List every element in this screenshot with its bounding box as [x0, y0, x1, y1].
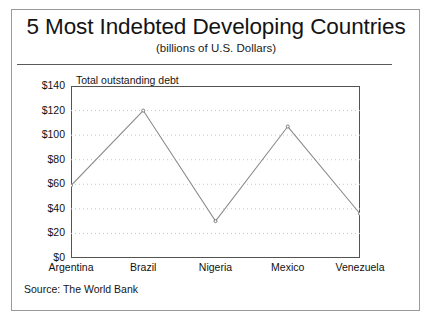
y-tick-label: $140	[19, 79, 65, 91]
data-point-marker	[286, 125, 289, 128]
data-point-marker	[142, 109, 145, 112]
plot-canvas	[71, 86, 360, 258]
chart-subtitle: (billions of U.S. Dollars)	[0, 42, 432, 54]
y-tick-label: $80	[19, 153, 65, 165]
chart-figure: 5 Most Indebted Developing Countries (bi…	[0, 0, 432, 322]
y-tick-label: $100	[19, 128, 65, 140]
chart-title: 5 Most Indebted Developing Countries	[0, 14, 432, 40]
header-divider	[17, 64, 392, 65]
y-tick-label: $40	[19, 202, 65, 214]
y-tick-label: $120	[19, 104, 65, 116]
y-tick-label: $60	[19, 177, 65, 189]
data-line-total-outstanding-debt	[71, 111, 360, 222]
x-tick-label: Mexico	[271, 261, 304, 273]
data-point-marker	[214, 220, 217, 223]
data-point-marker	[359, 212, 361, 215]
x-tick-label: Venezuela	[335, 261, 384, 273]
series-caption: Total outstanding debt	[76, 74, 179, 86]
data-point-marker	[71, 184, 73, 187]
y-tick-label: $20	[19, 226, 65, 238]
x-tick-label: Nigeria	[199, 261, 232, 273]
x-tick-label: Argentina	[49, 261, 94, 273]
x-tick-label: Brazil	[130, 261, 156, 273]
source-note: Source: The World Bank	[24, 283, 138, 295]
